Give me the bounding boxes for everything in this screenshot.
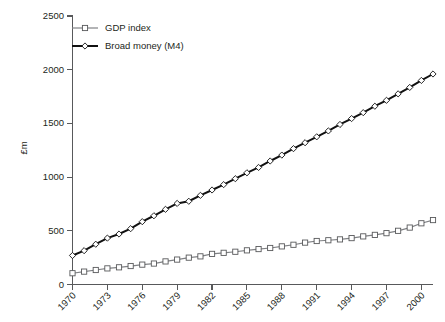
x-tick-label: 1970 bbox=[55, 290, 78, 313]
x-tick-label: 1997 bbox=[369, 290, 392, 313]
y-tick-label: 2500 bbox=[43, 10, 64, 21]
data-point-marker bbox=[314, 238, 319, 243]
data-point-marker bbox=[175, 257, 180, 262]
data-point-marker bbox=[82, 269, 87, 274]
data-point-marker bbox=[70, 271, 75, 276]
data-point-marker bbox=[209, 251, 214, 256]
data-point-marker bbox=[396, 228, 401, 233]
chart-legend: GDP indexBroad money (M4) bbox=[72, 22, 184, 51]
x-tick-label: 1988 bbox=[265, 290, 288, 313]
x-tick-label: 1979 bbox=[160, 290, 183, 313]
data-point-marker bbox=[151, 261, 156, 266]
x-tick-label: 1976 bbox=[125, 290, 148, 313]
y-tick-label: 500 bbox=[48, 225, 64, 236]
data-point-marker bbox=[221, 250, 226, 255]
y-tick-label: 2000 bbox=[43, 64, 64, 75]
series-broad-money-m4 bbox=[69, 71, 436, 259]
x-tick-label: 1994 bbox=[334, 290, 357, 313]
legend-marker bbox=[82, 43, 88, 49]
x-tick-label: 1982 bbox=[195, 290, 218, 313]
data-point-marker bbox=[244, 248, 249, 253]
x-axis: 1970197319761979198219851988199119941997… bbox=[55, 285, 433, 313]
data-point-marker bbox=[93, 267, 98, 272]
x-tick-label: 2000 bbox=[404, 290, 427, 313]
data-point-marker bbox=[69, 252, 75, 258]
series-gdp-index bbox=[70, 217, 436, 275]
data-point-marker bbox=[337, 237, 342, 242]
x-tick-label: 1973 bbox=[90, 290, 113, 313]
y-axis-title: £m bbox=[18, 141, 29, 154]
data-point-marker bbox=[116, 231, 122, 237]
series-line bbox=[73, 220, 434, 273]
data-point-marker bbox=[430, 217, 435, 222]
data-point-marker bbox=[116, 265, 121, 270]
data-point-marker bbox=[105, 266, 110, 271]
data-point-marker bbox=[256, 246, 261, 251]
data-point-marker bbox=[291, 242, 296, 247]
data-point-marker bbox=[186, 255, 191, 260]
data-point-marker bbox=[209, 187, 215, 193]
data-point-marker bbox=[140, 262, 145, 267]
data-point-marker bbox=[419, 221, 424, 226]
legend-item-gdp-index: GDP index bbox=[72, 22, 151, 33]
data-point-marker bbox=[233, 249, 238, 254]
y-tick-label: 0 bbox=[59, 279, 64, 290]
series-layer bbox=[69, 71, 436, 276]
chart-canvas: 05001000150020002500 £m 1970197319761979… bbox=[0, 0, 445, 322]
x-tick-label: 1985 bbox=[230, 290, 253, 313]
legend-item-broad-money-m4: Broad money (M4) bbox=[72, 40, 184, 51]
data-point-marker bbox=[163, 259, 168, 264]
data-point-marker bbox=[268, 245, 273, 250]
y-axis-ticks: 05001000150020002500 bbox=[43, 10, 73, 290]
legend-label: GDP index bbox=[105, 22, 151, 33]
line-chart: 05001000150020002500 £m 1970197319761979… bbox=[0, 0, 445, 322]
data-point-marker bbox=[302, 240, 307, 245]
data-point-marker bbox=[407, 225, 412, 230]
data-point-marker bbox=[198, 254, 203, 259]
y-axis: 05001000150020002500 £m bbox=[18, 10, 73, 290]
data-point-marker bbox=[349, 236, 354, 241]
data-point-marker bbox=[372, 232, 377, 237]
x-tick-label: 1991 bbox=[299, 290, 322, 313]
legend-marker bbox=[82, 25, 87, 30]
y-tick-label: 1000 bbox=[43, 171, 64, 182]
y-tick-label: 1500 bbox=[43, 117, 64, 128]
data-point-marker bbox=[326, 238, 331, 243]
data-point-marker bbox=[279, 244, 284, 249]
data-point-marker bbox=[128, 263, 133, 268]
x-axis-ticks: 1970197319761979198219851988199119941997… bbox=[55, 285, 427, 313]
series-line bbox=[73, 74, 434, 256]
data-point-marker bbox=[361, 234, 366, 239]
data-point-marker bbox=[384, 231, 389, 236]
legend-label: Broad money (M4) bbox=[105, 40, 184, 51]
